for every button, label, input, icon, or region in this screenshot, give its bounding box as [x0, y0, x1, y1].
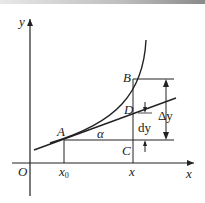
- label-B: B: [123, 70, 131, 85]
- label-x-axis: x: [185, 166, 192, 181]
- label-x0: x0: [58, 164, 69, 180]
- label-D: D: [123, 102, 134, 117]
- label-x: x: [128, 164, 135, 179]
- label-y-axis: y: [17, 14, 25, 29]
- label-origin: O: [18, 164, 28, 179]
- label-dy: dy: [138, 120, 152, 135]
- label-A: A: [56, 124, 65, 139]
- label-alpha: α: [97, 126, 105, 141]
- differential-diagram: y x O x0 x A B C D α Δy dy: [0, 0, 205, 203]
- label-delta-y: Δy: [158, 108, 173, 123]
- tangent-line: [34, 98, 176, 150]
- label-C: C: [122, 143, 131, 158]
